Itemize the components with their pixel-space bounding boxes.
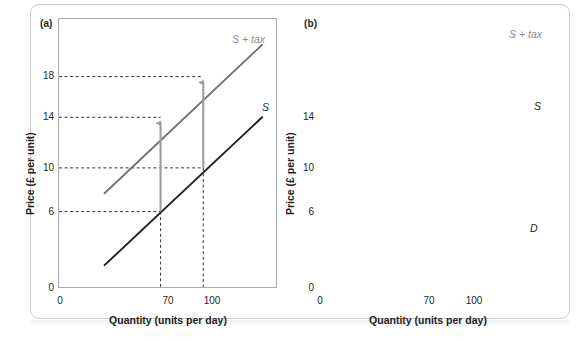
panel-a-ytick-14: 14 [28,112,54,122]
panel-b-xtick-0: 0 [303,296,337,306]
panel-a-plot-svg [59,19,276,287]
panel-a-x-axis-title: Quantity (units per day) [88,314,248,326]
panel-a: (a) 18 14 10 6 0 0 70 100 Quantity (unit… [0,0,288,340]
panel-b-letter: (b) [304,18,317,29]
panel-b-ytick-14: 14 [288,112,314,122]
panel-a-horizontal-guides [59,77,203,212]
panel-b-label-d: D [530,222,538,234]
panel-a-xtick-0: 0 [43,296,77,306]
panel-a-letter: (a) [40,18,53,29]
panel-b-xtick-100: 100 [457,296,491,306]
panel-a-plot-area [58,18,277,288]
panel-a-vertical-guides [161,168,204,287]
panel-a-y-axis-title: Price (£ per unit) [24,132,36,215]
panel-a-xtick-70: 70 [151,296,185,306]
panel-a-xtick-100: 100 [195,296,229,306]
panel-b-label-s-plus-tax: S + tax [509,28,542,40]
panel-a-ytick-18: 18 [28,71,54,81]
panel-b-y-axis-title: Price (£ per unit) [284,132,296,215]
panel-b-xtick-70: 70 [412,296,446,306]
panel-a-label-s: S [262,101,269,113]
panel-a-label-s-plus-tax: S + tax [232,33,265,45]
figure-container: (a) 18 14 10 6 0 0 70 100 Quantity (unit… [0,0,576,340]
panel-a-curve-s [105,117,263,265]
panel-a-ytick-0: 0 [28,283,54,293]
panel-b-label-s: S [534,100,541,112]
panel-b: (b) 14 10 6 0 0 70 100 Quantity (units p… [288,0,576,340]
panel-b-x-axis-title: Quantity (units per day) [348,314,508,326]
panel-b-ytick-0: 0 [288,283,314,293]
panel-a-curve-s-plus-tax [105,45,263,193]
